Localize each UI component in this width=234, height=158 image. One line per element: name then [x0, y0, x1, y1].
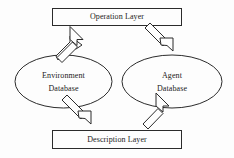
arrow-description-to-agent-shaft[interactable] — [143, 109, 163, 130]
agent-database-ellipse[interactable] — [122, 55, 222, 108]
node-agent-database[interactable]: Agent Database — [122, 55, 222, 108]
node-description-layer[interactable]: Description Layer — [53, 131, 182, 149]
agent-database-label-line1: Agent — [162, 71, 183, 80]
environment-database-label-line2: Database — [48, 84, 78, 93]
architecture-diagram: Operation Layer Environment Database Age… — [0, 0, 234, 158]
description-layer-label: Description Layer — [87, 135, 147, 144]
operation-layer-label: Operation Layer — [90, 12, 144, 21]
agent-database-label-line2: Database — [157, 84, 187, 93]
arrow-operation-to-agent-head[interactable] — [160, 38, 173, 51]
node-operation-layer[interactable]: Operation Layer — [53, 9, 182, 26]
environment-database-label-line1: Environment — [42, 71, 86, 80]
arrow-env-to-description-head[interactable] — [78, 111, 91, 124]
diagram-canvas: Operation Layer Environment Database Age… — [0, 0, 234, 158]
